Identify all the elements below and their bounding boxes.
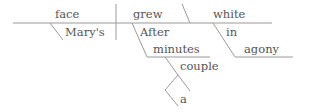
complement-slant bbox=[182, 4, 190, 23]
word-face: face bbox=[55, 9, 79, 21]
a-slant bbox=[165, 90, 178, 106]
couple-slant bbox=[165, 57, 178, 75]
word-grew: grew bbox=[133, 9, 163, 21]
word-couple: couple bbox=[180, 61, 219, 73]
v-right-leg bbox=[178, 75, 190, 91]
marys-slant bbox=[50, 23, 63, 40]
word-a: a bbox=[180, 94, 187, 106]
word-minutes: minutes bbox=[153, 44, 200, 56]
word-in: in bbox=[226, 27, 237, 39]
word-marys: Mary's bbox=[65, 27, 105, 39]
word-agony: agony bbox=[244, 44, 279, 56]
word-white: white bbox=[213, 9, 245, 21]
v-left-leg bbox=[165, 75, 178, 90]
word-after: After bbox=[140, 27, 169, 39]
